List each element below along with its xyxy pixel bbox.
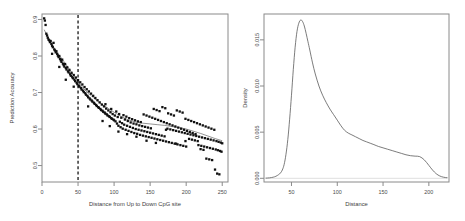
data-point xyxy=(130,131,132,133)
data-point xyxy=(107,109,109,111)
data-point xyxy=(58,66,60,68)
data-point xyxy=(196,122,198,124)
data-point xyxy=(61,59,63,61)
data-point xyxy=(94,97,96,99)
data-point xyxy=(134,119,136,121)
data-point xyxy=(218,173,220,175)
y-tick-label: 0.8 xyxy=(32,52,38,60)
data-point xyxy=(154,118,156,120)
two-panel-figure: 0501001502002500.50.60.70.80.9Distance f… xyxy=(0,0,465,221)
data-point xyxy=(122,114,124,116)
data-point xyxy=(152,132,154,134)
data-point xyxy=(214,168,216,170)
data-point xyxy=(159,139,161,141)
x-tick-label: 100 xyxy=(333,189,342,195)
data-point xyxy=(145,114,147,116)
data-point xyxy=(124,118,126,120)
data-point xyxy=(126,125,128,127)
data-point xyxy=(195,135,197,137)
data-point xyxy=(132,127,134,129)
data-point xyxy=(151,117,153,119)
data-point xyxy=(163,135,165,137)
data-point xyxy=(207,126,209,128)
x-tick-label: 200 xyxy=(424,189,433,195)
data-point xyxy=(143,113,145,115)
data-point xyxy=(117,125,119,127)
data-point xyxy=(165,129,167,131)
data-point xyxy=(202,124,204,126)
y-tick-label: 0.010 xyxy=(254,79,260,93)
data-point xyxy=(192,134,194,136)
data-point xyxy=(182,145,184,147)
scatter-panel: 0501001502002500.50.60.70.80.9Distance f… xyxy=(0,0,237,221)
scatter-points-group xyxy=(43,17,223,175)
data-point xyxy=(212,139,214,141)
data-point xyxy=(178,130,180,132)
data-point xyxy=(103,105,105,107)
data-point xyxy=(127,120,129,122)
data-point xyxy=(114,120,116,122)
data-point xyxy=(190,120,192,122)
data-point xyxy=(88,90,90,92)
data-point xyxy=(52,46,54,48)
x-axis-title: Distance xyxy=(345,201,368,207)
data-point xyxy=(137,129,139,131)
data-point xyxy=(176,109,178,111)
x-tick-label: 200 xyxy=(182,189,191,195)
data-point xyxy=(116,122,118,124)
data-point xyxy=(75,76,77,78)
y-tick-label: 0.5 xyxy=(32,162,38,170)
data-point xyxy=(166,122,168,124)
data-point xyxy=(153,137,155,139)
data-point xyxy=(115,110,117,112)
data-point xyxy=(171,142,173,144)
data-point xyxy=(167,112,169,114)
data-point xyxy=(186,130,188,132)
data-point xyxy=(119,126,121,128)
data-point xyxy=(87,105,89,107)
data-point xyxy=(197,144,199,146)
data-point xyxy=(119,121,121,123)
data-point xyxy=(129,126,131,128)
data-point xyxy=(160,120,162,122)
data-point xyxy=(200,145,202,147)
data-point xyxy=(90,92,92,94)
data-point xyxy=(92,95,94,97)
data-point xyxy=(147,126,149,128)
data-point xyxy=(143,130,145,132)
y-tick-label: 0.9 xyxy=(32,16,38,24)
data-point xyxy=(215,140,217,142)
x-tick-label: 150 xyxy=(146,189,155,195)
data-point xyxy=(99,101,101,103)
plot-frame xyxy=(264,14,449,182)
data-point xyxy=(55,50,57,52)
data-point xyxy=(86,88,88,90)
data-point xyxy=(206,146,208,148)
data-point xyxy=(70,72,72,74)
data-point xyxy=(199,123,201,125)
data-point xyxy=(161,134,163,136)
data-point xyxy=(66,66,68,68)
data-point xyxy=(136,133,138,135)
data-point xyxy=(207,138,209,140)
data-point xyxy=(101,120,103,122)
data-point xyxy=(212,148,214,150)
data-point xyxy=(44,19,46,21)
data-point xyxy=(179,110,181,112)
data-point xyxy=(150,127,152,129)
data-point xyxy=(199,148,201,150)
data-point xyxy=(114,114,116,116)
data-point xyxy=(211,159,213,161)
data-point xyxy=(210,138,212,140)
data-point xyxy=(101,103,103,105)
data-point xyxy=(123,124,125,126)
x-tick-label: 250 xyxy=(218,189,227,195)
y-tick-label: 0.005 xyxy=(254,125,260,139)
data-point xyxy=(140,121,142,123)
data-point xyxy=(180,128,182,130)
density-curve xyxy=(266,20,447,178)
x-tick-label: 150 xyxy=(379,189,388,195)
data-point xyxy=(202,149,204,151)
data-point xyxy=(165,140,167,142)
data-point xyxy=(146,131,148,133)
